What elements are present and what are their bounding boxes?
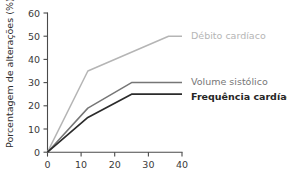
line-chart: Porcentagem de alterações (%) 60 50 40 3… [0, 0, 287, 181]
x-tick-label-10: 10 [75, 159, 87, 170]
series-line-frequencia-cardiaca [48, 94, 183, 152]
y-tick-label-50: 50 [28, 31, 40, 42]
y-tick-label-30: 30 [28, 77, 40, 88]
x-tick-label-0: 0 [44, 159, 50, 170]
y-tick-label-20: 20 [28, 100, 40, 111]
series-label-volume-sistolico: Volume sistólico [191, 76, 268, 87]
x-tick-label-20: 20 [109, 159, 121, 170]
y-tick-label-10: 10 [28, 124, 40, 135]
series-label-frequencia-cardiaca: Frequência cardíaca [191, 91, 287, 102]
y-axis-title: Porcentagem de alterações (%) [4, 0, 15, 148]
chart-figure: Porcentagem de alterações (%) 60 50 40 3… [0, 0, 287, 181]
x-tick-label-40: 40 [176, 159, 188, 170]
x-tick-label-30: 30 [142, 159, 154, 170]
series-label-debito-cardiaco: Débito cardíaco [191, 30, 266, 41]
series-line-volume-sistolico [48, 83, 183, 153]
y-tick-label-0: 0 [34, 147, 40, 158]
y-tick-label-40: 40 [28, 54, 40, 65]
y-tick-label-60: 60 [28, 8, 40, 19]
